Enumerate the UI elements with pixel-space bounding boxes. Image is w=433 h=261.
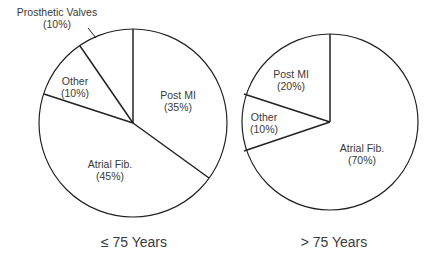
label-prosthetic-valves-pct: (10%) bbox=[17, 18, 97, 30]
label-left-other: Other (10%) bbox=[61, 75, 89, 99]
label-right-post-mi-pct: (20%) bbox=[273, 80, 309, 92]
left-pie bbox=[39, 28, 227, 217]
label-left-post-mi: Post MI (35%) bbox=[160, 89, 196, 113]
label-left-other-name: Other bbox=[61, 75, 89, 87]
label-right-other-name: Other bbox=[250, 111, 278, 123]
label-right-atrial-fib-pct: (70%) bbox=[340, 154, 384, 166]
label-left-atrial-fib: Atrial Fib. (45%) bbox=[88, 158, 132, 182]
label-right-other-pct: (10%) bbox=[250, 123, 278, 135]
label-left-post-mi-name: Post MI bbox=[160, 89, 196, 101]
label-right-atrial-fib-name: Atrial Fib. bbox=[340, 142, 384, 154]
right-pie-caption: > 75 Years bbox=[301, 234, 368, 250]
label-left-atrial-fib-pct: (45%) bbox=[88, 170, 132, 182]
label-right-post-mi-name: Post MI bbox=[273, 68, 309, 80]
pie-charts-canvas bbox=[0, 0, 433, 261]
label-right-post-mi: Post MI (20%) bbox=[273, 68, 309, 92]
left-pie-caption: ≤ 75 Years bbox=[101, 234, 167, 250]
label-left-other-pct: (10%) bbox=[61, 87, 89, 99]
label-prosthetic-valves: Prosthetic Valves (10%) bbox=[17, 6, 97, 30]
label-right-atrial-fib: Atrial Fib. (70%) bbox=[340, 142, 384, 166]
label-prosthetic-valves-name: Prosthetic Valves bbox=[17, 6, 97, 18]
left-divider-postmi-atrial bbox=[133, 123, 209, 178]
label-left-post-mi-pct: (35%) bbox=[160, 101, 196, 113]
label-left-atrial-fib-name: Atrial Fib. bbox=[88, 158, 132, 170]
label-right-other: Other (10%) bbox=[250, 111, 278, 135]
